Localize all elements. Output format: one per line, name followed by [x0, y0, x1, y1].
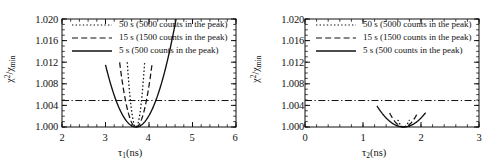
legend-label-left-0: 50 s (5000 counts in the peak): [119, 20, 227, 29]
ytick-left-4: 1.004: [12, 100, 58, 111]
ytick-left-1: 1.016: [12, 35, 58, 46]
xaxis-title-left-unit: (ns): [126, 147, 142, 158]
legend-item-right-0: 50 s (5000 counts in the peak): [316, 18, 471, 31]
xtick-right-2: 2: [411, 132, 431, 143]
legend-item-right-2: 5 s (500 counts in the peak): [316, 44, 471, 57]
xtick-right-3: 3: [469, 132, 489, 143]
figure-container: 1.020 1.016 1.012 1.008 1.004 1.000 2 3 …: [0, 0, 501, 168]
yaxis-title-right-den-sub: min: [254, 56, 263, 68]
yaxis-title-right-num-sup: 2: [249, 74, 258, 78]
legend-key-dotted-left: [72, 20, 112, 30]
xaxis-title-right: τ2(ns): [362, 147, 386, 160]
xtick-right-1: 1: [353, 132, 373, 143]
legend-item-left-0: 50 s (5000 counts in the peak): [72, 18, 227, 31]
legend-label-left-2: 5 s (500 counts in the peak): [119, 46, 218, 55]
legend-key-dashed-right: [316, 33, 356, 43]
chart-panel-left: 1.020 1.016 1.012 1.008 1.004 1.000 2 3 …: [0, 0, 250, 168]
legend-label-right-0: 50 s (5000 counts in the peak): [363, 20, 471, 29]
xtick-left-2: 4: [138, 132, 158, 143]
ytick-right-0: 1.020: [258, 14, 304, 25]
xtick-left-3: 5: [182, 132, 202, 143]
legend-label-left-1: 15 s (1500 counts in the peak): [119, 33, 227, 42]
xtick-left-4: 6: [225, 132, 245, 143]
ytick-right-2: 1.012: [258, 57, 304, 68]
ytick-right-1: 1.016: [258, 35, 304, 46]
legend-key-solid-right: [316, 46, 356, 56]
ytick-right-3: 1.008: [258, 78, 304, 89]
ytick-left-3: 1.008: [12, 78, 58, 89]
yaxis-title-left-num-sup: 2: [3, 74, 12, 78]
legend-item-right-1: 15 s (1500 counts in the peak): [316, 31, 471, 44]
xtick-left-1: 3: [95, 132, 115, 143]
ytick-left-5: 1.000: [12, 121, 58, 132]
legend-item-left-2: 5 s (500 counts in the peak): [72, 44, 227, 57]
legend-label-right-1: 15 s (1500 counts in the peak): [363, 33, 471, 42]
ytick-left-0: 1.020: [12, 14, 58, 25]
xaxis-title-right-unit: (ns): [370, 147, 386, 158]
legend-key-dashed-left: [72, 33, 112, 43]
chart-panel-right: 1.020 1.016 1.012 1.008 1.004 1.000 0 1 …: [250, 0, 500, 168]
yaxis-title-left: χ2/χmin: [3, 39, 17, 99]
legend-key-solid-left: [72, 46, 112, 56]
ytick-left-2: 1.012: [12, 57, 58, 68]
yaxis-title-left-den-sub: min: [8, 56, 17, 68]
yaxis-title-right-den: χ: [250, 67, 261, 71]
xtick-right-0: 0: [295, 132, 315, 143]
yaxis-title-left-den: χ: [4, 67, 15, 71]
ytick-right-5: 1.000: [258, 121, 304, 132]
legend-label-right-2: 5 s (500 counts in the peak): [363, 46, 462, 55]
yaxis-title-right: χ2/χmin: [249, 39, 263, 99]
yaxis-title-left-num: χ: [4, 78, 15, 82]
xaxis-title-left: τ1(ns): [118, 147, 142, 160]
xtick-left-0: 2: [52, 132, 72, 143]
ytick-right-4: 1.004: [258, 100, 304, 111]
legend-item-left-1: 15 s (1500 counts in the peak): [72, 31, 227, 44]
legend-right: 50 s (5000 counts in the peak) 15 s (150…: [316, 18, 471, 57]
legend-left: 50 s (5000 counts in the peak) 15 s (150…: [72, 18, 227, 57]
legend-key-dotted-right: [316, 20, 356, 30]
yaxis-title-right-num: χ: [250, 78, 261, 82]
curve-solid: [377, 106, 426, 127]
